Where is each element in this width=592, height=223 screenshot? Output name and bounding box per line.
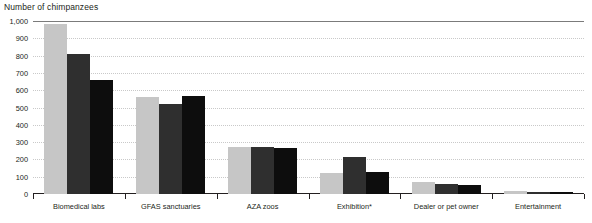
- bar-group: [400, 21, 492, 194]
- bar: [412, 182, 435, 194]
- bar: [44, 24, 67, 194]
- y-axis-tick-label: 700: [16, 68, 28, 77]
- x-axis-tick: [492, 194, 493, 199]
- x-axis-category-label: Exhibition*: [337, 202, 372, 211]
- bar-group: [33, 21, 125, 194]
- y-axis-tick-label: 400: [16, 120, 28, 129]
- x-axis-tick: [33, 194, 34, 199]
- bar: [90, 80, 113, 194]
- x-axis-tick: [309, 194, 310, 199]
- x-axis-tick: [125, 194, 126, 199]
- bar: [159, 104, 182, 194]
- bar: [343, 157, 366, 194]
- x-axis-tick: [400, 194, 401, 199]
- x-axis-category-label: GFAS sanctuaries: [141, 202, 201, 211]
- bar: [458, 185, 481, 195]
- bar: [251, 147, 274, 194]
- bar: [435, 184, 458, 194]
- bar-group: [217, 21, 309, 194]
- y-axis-tick-label: 1,000: [10, 17, 29, 26]
- y-axis-tick-label: 300: [16, 138, 28, 147]
- y-axis-tick-label: 600: [16, 86, 28, 95]
- plot-area: [33, 21, 584, 194]
- x-axis-category-label: Entertainment: [515, 202, 561, 211]
- x-axis-category-label: AZA zoos: [247, 202, 279, 211]
- y-axis-tick-label: 800: [16, 51, 28, 60]
- y-axis-tick-label: 200: [16, 155, 28, 164]
- bar: [182, 96, 205, 194]
- y-axis-tick-label: 0: [24, 190, 28, 199]
- bar-group: [492, 21, 584, 194]
- bar: [228, 147, 251, 194]
- bar: [136, 97, 159, 194]
- x-axis-tick: [584, 194, 585, 199]
- x-axis-category-label: Dealer or pet owner: [414, 202, 479, 211]
- x-axis-category-label: Biomedical labs: [53, 202, 105, 211]
- bar: [366, 172, 389, 194]
- bar: [274, 148, 297, 194]
- bar-group: [309, 21, 401, 194]
- y-axis-labels: 1,0009008007006005004003002001000: [0, 21, 28, 194]
- y-axis-tick-label: 500: [16, 103, 28, 112]
- y-axis-tick-label: 900: [16, 34, 28, 43]
- bar: [67, 54, 90, 194]
- bar-group: [125, 21, 217, 194]
- x-axis: Biomedical labsGFAS sanctuariesAZA zoosE…: [33, 194, 584, 223]
- x-axis-tick: [217, 194, 218, 199]
- bar-chart: Number of chimpanzees 1,0009008007006005…: [0, 0, 592, 223]
- bar: [320, 173, 343, 194]
- chart-title: Number of chimpanzees: [4, 2, 98, 12]
- y-axis-tick-label: 100: [16, 172, 28, 181]
